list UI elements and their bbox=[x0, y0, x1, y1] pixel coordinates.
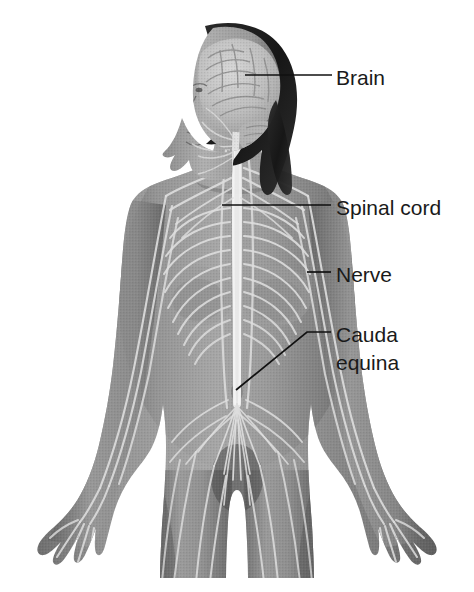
label-spinal-cord: Spinal cord bbox=[336, 194, 441, 222]
label-cauda-equina-line2: equina bbox=[336, 351, 399, 374]
nervous-system-illustration bbox=[0, 0, 474, 592]
anatomy-figure: Brain Spinal cord Nerve Caudaequina bbox=[0, 0, 474, 592]
label-cauda-equina: Caudaequina bbox=[336, 321, 399, 377]
label-brain: Brain bbox=[336, 64, 385, 92]
label-cauda-equina-line1: Cauda bbox=[336, 323, 398, 346]
label-nerve: Nerve bbox=[336, 261, 392, 289]
